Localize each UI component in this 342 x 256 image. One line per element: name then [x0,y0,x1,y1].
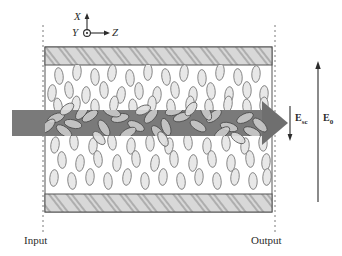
axis-label-x: X [74,11,81,22]
y-axis-out-of-page-dot [86,32,88,34]
applied-field-symbol: E [323,112,330,123]
axis-label-y: Y [72,27,78,38]
space-charge-field-symbol: E [295,112,302,123]
diagram-svg [0,0,342,256]
top-electrode [45,47,272,65]
coordinate-axes [84,13,110,36]
x-axis-arrowhead [85,13,90,19]
space-charge-field-arrow [288,106,293,141]
figure-canvas: X Y Z Esc E0 Input Output [0,0,342,256]
applied-field-subscript: 0 [330,118,334,126]
bottom-electrode [45,194,272,212]
space-charge-field-label: Esc [295,113,308,126]
z-axis-arrowhead [104,31,110,36]
beam-arrowhead [262,101,288,145]
input-label: Input [24,235,47,246]
space-charge-field-subscript: sc [302,118,308,126]
axis-label-z: Z [112,27,118,38]
applied-field-arrow [315,61,320,202]
applied-field-label: E0 [323,113,333,126]
output-label: Output [251,235,282,246]
